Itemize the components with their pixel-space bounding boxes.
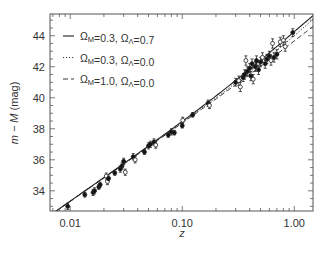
x-axis-ticks: 0.010.101.00 xyxy=(53,14,305,229)
legend-entry: ΩM=0.3, ΩΛ=0.0 xyxy=(63,52,154,68)
x-axis-label: z xyxy=(178,227,185,239)
y-tick-label: 40 xyxy=(33,92,45,104)
y-tick-label: 42 xyxy=(33,61,45,73)
data-point xyxy=(107,176,111,181)
data-point xyxy=(191,113,195,118)
data-point xyxy=(123,169,127,175)
data-point xyxy=(98,182,102,187)
data-point xyxy=(142,150,146,155)
y-axis-label-unit: (mag) xyxy=(8,82,20,114)
legend: ΩM=0.3, ΩΛ=0.7ΩM=0.3, ΩΛ=0.0ΩM=1.0, ΩΛ=0… xyxy=(63,30,154,89)
legend-entry: ΩM=1.0, ΩΛ=0.0 xyxy=(63,73,154,89)
data-point xyxy=(113,171,117,176)
y-tick-label: 38 xyxy=(33,123,45,135)
legend-label: ΩM=0.3, ΩΛ=0.0 xyxy=(80,52,154,68)
data-point xyxy=(172,130,176,135)
legend-entry: ΩM=0.3, ΩΛ=0.7 xyxy=(63,30,154,46)
y-tick-label: 36 xyxy=(33,154,45,166)
legend-label: ΩM=1.0, ΩΛ=0.0 xyxy=(80,73,154,89)
y-tick-label: 34 xyxy=(33,185,45,197)
y-axis-label: m − M (mag) xyxy=(8,82,20,145)
data-point xyxy=(271,39,275,48)
legend-label: ΩM=0.3, ΩΛ=0.7 xyxy=(80,30,154,46)
x-tick-label: 0.01 xyxy=(60,217,81,229)
hubble-diagram-chart: 0.010.101.00 343638404244 z m − M (mag) … xyxy=(0,0,327,253)
y-tick-label: 44 xyxy=(33,30,45,42)
x-tick-label: 1.00 xyxy=(284,217,305,229)
y-axis-ticks: 343638404244 xyxy=(33,20,313,206)
data-point xyxy=(83,192,87,197)
data-point xyxy=(244,56,248,65)
y-axis-label-main: m − M xyxy=(8,113,20,145)
data-point xyxy=(180,123,184,128)
